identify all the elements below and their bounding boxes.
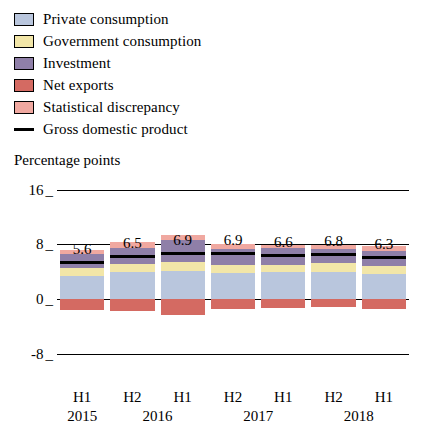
x-axis-tick-label: H2	[224, 388, 242, 407]
bar-segment	[211, 299, 255, 309]
legend-item: Investment	[14, 52, 201, 74]
bar-segment	[110, 299, 154, 311]
bar-group	[158, 176, 208, 381]
value-label: 6.3	[374, 236, 393, 253]
value-label: 6.8	[324, 233, 343, 250]
value-label: 5.6	[73, 241, 92, 258]
x-axis-period-label: 2016	[143, 407, 173, 426]
x-axis-period-label: 2017	[243, 407, 273, 426]
legend-swatch-icon	[14, 79, 34, 92]
bar-group	[208, 176, 258, 381]
bar-segment	[110, 272, 154, 299]
y-axis-tick-label: 0_	[36, 291, 53, 308]
x-axis-tick-label: H1	[274, 388, 292, 407]
value-label: 6.6	[274, 234, 293, 251]
value-label: 6.9	[173, 232, 192, 249]
bar-segment	[311, 249, 355, 263]
legend-label: Statistical discrepancy	[43, 100, 180, 115]
x-axis-period-label: 2015	[67, 407, 97, 426]
bar-segment	[161, 262, 205, 271]
legend-label: Gross domestic product	[43, 122, 188, 137]
bar-segment	[311, 263, 355, 271]
x-axis-labels: H1H2H1H2H1H2H12015201620172018	[57, 388, 409, 438]
bar-group	[359, 176, 409, 381]
legend-swatch-icon	[14, 35, 34, 48]
bar-segment	[311, 299, 355, 307]
value-label: 6.5	[123, 235, 142, 252]
bar-segment	[60, 276, 104, 299]
legend-swatch-icon	[14, 13, 34, 26]
legend-item: Government consumption	[14, 30, 201, 52]
bar-segment	[362, 299, 406, 309]
legend-label: Private consumption	[43, 12, 169, 27]
bar-group	[107, 176, 157, 381]
bar-segment	[362, 274, 406, 299]
bar-segment	[311, 272, 355, 299]
y-axis-tick-label: 8_	[36, 236, 53, 253]
bar-segment	[261, 272, 305, 299]
legend-swatch-icon	[14, 101, 34, 114]
legend-label: Investment	[43, 56, 111, 71]
gdp-line-marker	[110, 255, 154, 258]
chart-legend: Private consumptionGovernment consumptio…	[14, 8, 201, 140]
bar-segment	[261, 299, 305, 308]
chart-page: Private consumptionGovernment consumptio…	[0, 0, 424, 447]
bar-segment	[60, 299, 104, 310]
value-label: 6.9	[224, 232, 243, 249]
bar-segment	[211, 273, 255, 299]
legend-item: Private consumption	[14, 8, 201, 30]
bar-segment	[362, 266, 406, 274]
bar-segment	[110, 264, 154, 272]
legend-swatch-icon	[14, 57, 34, 70]
gdp-line-marker	[311, 253, 355, 256]
legend-label: Government consumption	[43, 34, 201, 49]
gdp-line-marker	[161, 252, 205, 255]
bar-group	[258, 176, 308, 381]
gdp-line-marker	[362, 256, 406, 259]
bar-segment	[161, 271, 205, 299]
bar-segment	[60, 268, 104, 276]
plot-area: 16_8_0_-8_5.66.56.96.96.66.86.3	[57, 176, 409, 381]
gdp-line-marker	[261, 254, 305, 257]
legend-label: Net exports	[43, 78, 114, 93]
legend-item: Net exports	[14, 74, 201, 96]
legend-swatch-icon	[14, 128, 34, 131]
bar-segment	[211, 265, 255, 273]
legend-item: Gross domestic product	[14, 118, 201, 140]
x-axis-period-label: 2018	[344, 407, 374, 426]
bar-group	[57, 176, 107, 381]
x-axis-tick-label: H2	[123, 388, 141, 407]
x-axis-tick-label: H1	[375, 388, 393, 407]
x-axis-tick-label: H1	[174, 388, 192, 407]
y-axis-tick-label: -8_	[31, 345, 53, 362]
gdp-line-marker	[60, 261, 104, 264]
bar-group	[308, 176, 358, 381]
y-axis-tick-label: 16_	[29, 181, 54, 198]
x-axis-tick-label: H1	[73, 388, 91, 407]
gdp-line-marker	[211, 252, 255, 255]
y-axis-title: Percentage points	[14, 152, 120, 169]
bar-segment	[161, 299, 205, 315]
x-axis-tick-label: H2	[324, 388, 342, 407]
legend-item: Statistical discrepancy	[14, 96, 201, 118]
bar-segment	[261, 265, 305, 273]
